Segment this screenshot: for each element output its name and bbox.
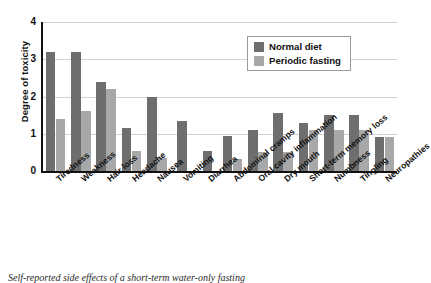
legend-item-normal-diet: Normal diet xyxy=(254,41,341,52)
x-tick-label: Neuropathies xyxy=(383,141,431,184)
chart-legend: Normal diet Periodic fasting xyxy=(247,36,351,71)
legend-label-periodic-fasting: Periodic fasting xyxy=(269,55,341,66)
legend-item-periodic-fasting: Periodic fasting xyxy=(254,55,341,66)
legend-label-normal-diet: Normal diet xyxy=(269,41,322,52)
legend-swatch-periodic-fasting xyxy=(254,56,264,66)
figure-caption: Self-reported side effects of a short-te… xyxy=(8,272,403,283)
legend-swatch-normal-diet xyxy=(254,42,264,52)
